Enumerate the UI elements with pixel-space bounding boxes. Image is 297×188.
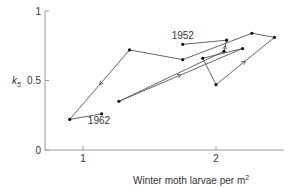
data-point (273, 36, 276, 39)
data-point (201, 57, 204, 60)
year-annotation: 1962 (88, 115, 111, 126)
data-point (250, 32, 253, 35)
x-tick-label: 2 (213, 153, 219, 164)
series-line (68, 32, 276, 121)
data-point (241, 47, 244, 50)
chart: 1200.51 19521962 Winter moth larvae per … (0, 0, 297, 188)
y-tick-label: 0.5 (27, 75, 41, 86)
data-point (68, 118, 71, 121)
trajectory-line (70, 33, 275, 119)
annotations: 19521962 (88, 30, 194, 126)
y-tick-label: 1 (35, 6, 41, 17)
axes (45, 11, 284, 150)
year-annotation: 1952 (172, 30, 195, 41)
tick-labels: 1200.51 (27, 6, 219, 165)
data-point (225, 39, 228, 42)
data-point (181, 58, 184, 61)
x-tick-label: 1 (80, 153, 86, 164)
data-point (222, 50, 225, 53)
y-axis-label: k5 (12, 75, 21, 88)
data-point (117, 100, 120, 103)
data-point (181, 43, 184, 46)
x-axis-label: Winter moth larvae per m2 (133, 174, 249, 186)
data-point (128, 48, 131, 51)
y-tick-label: 0 (35, 145, 41, 156)
data-point (214, 83, 217, 86)
